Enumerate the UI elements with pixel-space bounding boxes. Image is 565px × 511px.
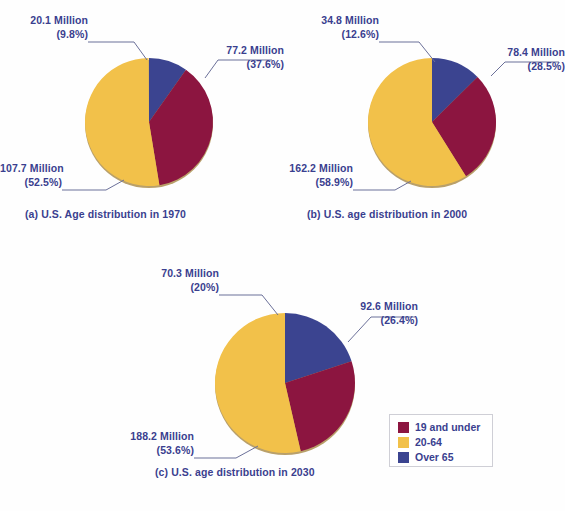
label-a-20to64-percent: (52.5%)	[0, 176, 62, 190]
leader-c-20to64	[194, 446, 258, 458]
legend-swatch-under19	[398, 422, 409, 433]
label-c-20to64-percent: (53.6%)	[118, 444, 194, 458]
caption-a: (a) U.S. Age distribution in 1970	[25, 208, 186, 220]
label-a-20to64-value: 107.7 Million	[0, 162, 62, 176]
label-c-under19: 92.6 Million (26.4%)	[332, 300, 418, 327]
label-b-over65: 34.8 Million (12.6%)	[283, 14, 379, 41]
label-c-20to64: 188.2 Million (53.6%)	[118, 430, 194, 457]
legend-swatch-over65	[398, 452, 409, 463]
label-c-20to64-value: 188.2 Million	[118, 430, 194, 444]
label-c-over65: 70.3 Million (20%)	[118, 267, 219, 294]
legend-item-over65[interactable]: Over 65	[398, 451, 485, 464]
label-a-over65-percent: (9.8%)	[0, 28, 88, 42]
legend-swatch-20to64	[398, 437, 409, 448]
label-b-under19-percent: (28.5%)	[475, 60, 565, 74]
label-a-over65: 20.1 Million (9.8%)	[0, 14, 88, 41]
label-b-20to64-value: 162.2 Million	[283, 162, 353, 176]
label-c-over65-percent: (20%)	[118, 281, 219, 295]
pie-c-slices	[215, 313, 355, 453]
legend: 19 and under 20-64 Over 65	[389, 414, 493, 467]
legend-label-over65: Over 65	[415, 452, 454, 463]
label-a-20to64: 107.7 Million (52.5%)	[0, 162, 62, 189]
label-c-under19-percent: (26.4%)	[332, 314, 418, 328]
label-b-20to64-percent: (58.9%)	[283, 176, 353, 190]
label-b-under19: 78.4 Million (28.5%)	[475, 46, 565, 73]
leader-a-over65	[88, 42, 147, 60]
label-b-under19-value: 78.4 Million	[475, 46, 565, 60]
caption-c: (c) U.S. age distribution in 2030	[155, 466, 315, 478]
label-b-over65-percent: (12.6%)	[283, 28, 379, 42]
label-b-over65-value: 34.8 Million	[283, 14, 379, 28]
label-a-under19-percent: (37.6%)	[194, 58, 284, 72]
legend-label-under19: 19 and under	[415, 422, 480, 433]
figure-canvas: 20.1 Million (9.8%) 77.2 Million (37.6%)…	[0, 0, 565, 511]
pie-a-slice-20to64[interactable]	[85, 58, 159, 186]
label-c-under19-value: 92.6 Million	[332, 300, 418, 314]
legend-label-20to64: 20-64	[415, 437, 442, 448]
leader-a-20to64	[62, 180, 124, 190]
leader-c-over65	[219, 295, 278, 315]
label-b-20to64: 162.2 Million (58.9%)	[283, 162, 353, 189]
label-a-under19-value: 77.2 Million	[194, 44, 284, 58]
leader-b-20to64	[353, 181, 411, 190]
legend-item-20to64[interactable]: 20-64	[398, 436, 485, 449]
label-c-over65-value: 70.3 Million	[118, 267, 219, 281]
pie-chart-a: 20.1 Million (9.8%) 77.2 Million (37.6%)…	[0, 0, 283, 235]
caption-b: (b) U.S. age distribution in 2000	[307, 208, 467, 220]
legend-item-under19[interactable]: 19 and under	[398, 421, 485, 434]
label-a-over65-value: 20.1 Million	[0, 14, 88, 28]
pie-chart-c: 70.3 Million (20%) 92.6 Million (26.4%) …	[118, 262, 418, 507]
pie-chart-b: 34.8 Million (12.6%) 78.4 Million (28.5%…	[283, 0, 565, 235]
label-a-under19: 77.2 Million (37.6%)	[194, 44, 284, 71]
pie-a-slices	[85, 58, 213, 186]
pie-b-slices	[368, 58, 496, 186]
